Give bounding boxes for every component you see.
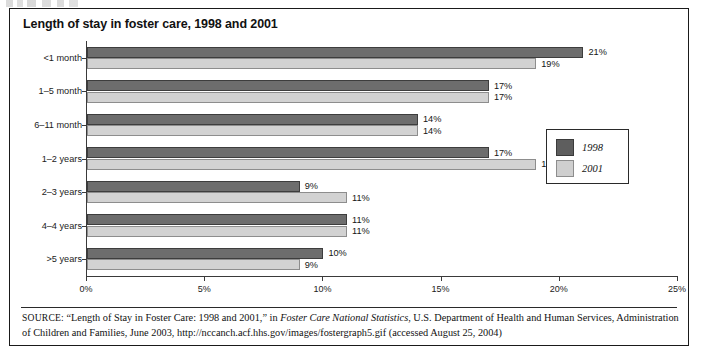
bar-value-label: 9%: [305, 181, 318, 191]
bar-value-label: 14%: [423, 114, 441, 124]
x-axis-tick: [441, 276, 442, 281]
legend-item-2001: 2001: [556, 160, 603, 177]
bar-1998-6-11-month: [87, 114, 418, 125]
legend-swatch-1998: [556, 139, 574, 156]
bar-value-label: 11%: [352, 193, 370, 203]
y-axis-category-label: 4–4 years: [42, 221, 82, 231]
x-axis-tick: [322, 276, 323, 281]
bar-1998-1-2-years: [87, 147, 489, 158]
bar-value-label: 10%: [328, 248, 346, 258]
x-axis-tick-label: 10%: [313, 284, 331, 294]
bar-2001-6-11-month: [87, 125, 418, 136]
bar-2001-2-3-years: [87, 192, 347, 203]
x-axis-tick: [86, 276, 87, 281]
bar-2001-1-5-month: [87, 92, 489, 103]
source-divider: [21, 307, 677, 308]
y-axis-tick: [82, 91, 86, 92]
y-axis-category-label: 6–11 month: [34, 120, 82, 130]
y-axis-category-labels: <1 month1–5 month6–11 month1–2 years2–3 …: [23, 41, 86, 276]
y-axis-tick: [82, 125, 86, 126]
bar-value-label: 19%: [541, 59, 559, 69]
y-axis-tick: [82, 159, 86, 160]
y-axis-tick: [82, 192, 86, 193]
y-axis-category-label: 1–2 years: [42, 154, 82, 164]
y-axis-tick: [82, 226, 86, 227]
source-publication-title: Foster Care National Statistics: [280, 312, 408, 323]
bar-1998-2-3-years: [87, 181, 300, 192]
y-axis-category-label: 2–3 years: [42, 187, 82, 197]
bar-1998-4-4-years: [87, 214, 347, 225]
source-label: SOURCE:: [22, 312, 64, 323]
chart-plot-region: <1 month1–5 month6–11 month1–2 years2–3 …: [23, 41, 677, 296]
x-axis-tick-label: 0%: [79, 284, 92, 294]
bar-2001-4-4-years: [87, 226, 347, 237]
legend-item-1998: 1998: [556, 139, 603, 156]
x-axis-tick: [677, 276, 678, 281]
figure-container: Length of stay in foster care, 1998 and …: [9, 8, 689, 346]
x-axis-tick-label: 20%: [550, 284, 568, 294]
bar-2001-1-2-years: [87, 159, 536, 170]
bar-value-label: 17%: [494, 148, 512, 158]
x-axis-line: [86, 276, 677, 277]
bar-1998-1-5-month: [87, 80, 489, 91]
legend-label-2001: 2001: [582, 163, 603, 174]
legend-label-1998: 1998: [582, 142, 603, 153]
bar-1998--5-years: [87, 248, 323, 259]
bar-1998--1-month: [87, 47, 583, 58]
x-axis-tick-label: 25%: [668, 284, 686, 294]
chart-legend: 19982001: [546, 129, 629, 184]
page-title: Length of stay in foster care, 1998 and …: [23, 17, 278, 31]
x-axis-tick: [559, 276, 560, 281]
bar-value-label: 11%: [352, 215, 370, 225]
x-axis-tick: [204, 276, 205, 281]
bar-value-label: 17%: [494, 92, 512, 102]
y-axis-tick: [82, 259, 86, 260]
legend-swatch-2001: [556, 160, 574, 177]
x-axis-tick-label: 5%: [198, 284, 211, 294]
bar-value-label: 17%: [494, 81, 512, 91]
y-axis-category-label: <1 month: [43, 53, 82, 63]
cropped-text-sliver: [6, 0, 126, 7]
x-axis-tick-label: 15%: [432, 284, 450, 294]
bar-value-label: 14%: [423, 126, 441, 136]
bar-value-label: 9%: [305, 260, 318, 270]
bar-value-label: 21%: [588, 47, 606, 57]
y-axis-category-label: 1–5 month: [39, 86, 82, 96]
y-axis-tick: [82, 58, 86, 59]
y-axis-category-label: >5 years: [47, 254, 83, 264]
bar-2001--1-month: [87, 58, 536, 69]
source-note: SOURCE: “Length of Stay in Foster Care: …: [22, 311, 680, 340]
bar-2001--5-years: [87, 259, 300, 270]
bar-value-label: 11%: [352, 226, 370, 236]
source-text-before: “Length of Stay in Foster Care: 1998 and…: [64, 312, 280, 323]
